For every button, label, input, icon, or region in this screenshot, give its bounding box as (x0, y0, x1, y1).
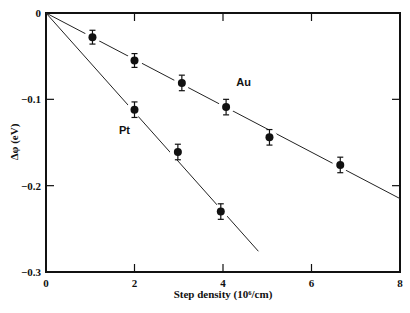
series-label-pt: Pt (119, 124, 130, 136)
data-point-au (261, 129, 277, 145)
data-point-au (174, 75, 190, 91)
data-point-au (332, 157, 348, 173)
x-tick-label: 2 (132, 277, 138, 289)
marker (217, 208, 225, 216)
series-label-au: Au (236, 76, 251, 88)
data-point-pt (213, 204, 229, 220)
data-point-au (218, 99, 234, 115)
y-axis-title: Δφ (eV) (8, 123, 21, 160)
x-tick-label: 0 (43, 277, 49, 289)
y-tick-label: −0.1 (21, 93, 41, 105)
data-point-pt (127, 102, 143, 118)
marker (174, 148, 182, 156)
chart: 024680−0.1−0.2−0.3 AuPt Step density (10… (0, 0, 410, 313)
marker (336, 161, 344, 169)
marker (88, 33, 96, 41)
x-tick-label: 6 (309, 277, 315, 289)
marker (178, 79, 186, 87)
data-point-pt (170, 144, 186, 160)
y-tick-label: −0.2 (21, 180, 42, 192)
marker (131, 106, 139, 114)
y-tick-label: −0.3 (21, 266, 42, 278)
axes-box (46, 13, 400, 272)
marker (222, 103, 230, 111)
marker (131, 56, 139, 64)
x-tick-label: 8 (397, 277, 403, 289)
axis-ticks (46, 13, 400, 272)
data-point-au (127, 52, 143, 68)
data-point-au (84, 29, 100, 45)
y-tick-label: 0 (36, 7, 42, 19)
plot-frame (46, 13, 400, 272)
x-axis-title: Step density (10⁶/cm) (174, 288, 273, 301)
marker (265, 133, 273, 141)
